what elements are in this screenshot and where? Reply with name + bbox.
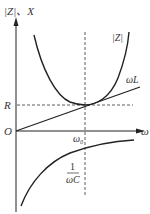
inductive-reactance-label: ωL bbox=[126, 75, 139, 85]
impedance-frequency-diagram: |Z|、X O R ω ω₀ |Z| ωL 1 ωC bbox=[0, 0, 150, 214]
impedance-curve-label: |Z| bbox=[112, 33, 123, 43]
capacitive-label-denominator: ωC bbox=[66, 175, 80, 185]
omega0-label: ω₀ bbox=[73, 134, 84, 144]
capacitive-label-numerator: 1 bbox=[70, 162, 75, 172]
x-axis-label: ω bbox=[141, 126, 149, 137]
y-axis-arrow-icon bbox=[14, 17, 19, 26]
r-label: R bbox=[4, 100, 11, 111]
y-axis-label: |Z|、X bbox=[4, 6, 34, 17]
inductive-reactance-line bbox=[16, 87, 140, 131]
origin-label: O bbox=[4, 126, 12, 137]
